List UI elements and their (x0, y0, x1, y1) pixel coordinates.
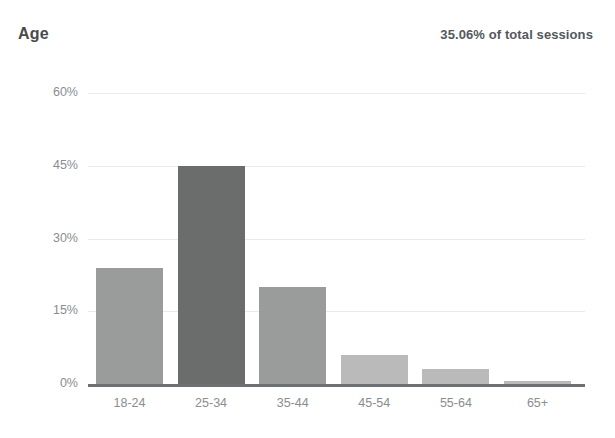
age-distribution-chart-widget: Age 35.06% of total sessions 0%15%30%45%… (0, 0, 615, 438)
x-tick-label: 45-54 (341, 396, 408, 410)
x-axis-line (88, 384, 585, 387)
bar-18-24[interactable] (96, 268, 163, 384)
plot-area: 0%15%30%45%60% 18-2425-3435-4445-5455-64… (0, 0, 615, 438)
bar-45-54[interactable] (341, 355, 408, 384)
x-tick-label: 55-64 (422, 396, 489, 410)
x-tick-label: 35-44 (259, 396, 326, 410)
bar-35-44[interactable] (259, 287, 326, 384)
bar-55-64[interactable] (422, 369, 489, 384)
x-tick-label: 65+ (504, 396, 571, 410)
bar-25-34[interactable] (178, 166, 245, 384)
x-tick-label: 18-24 (96, 396, 163, 410)
bar-series (0, 0, 615, 384)
x-tick-label: 25-34 (178, 396, 245, 410)
